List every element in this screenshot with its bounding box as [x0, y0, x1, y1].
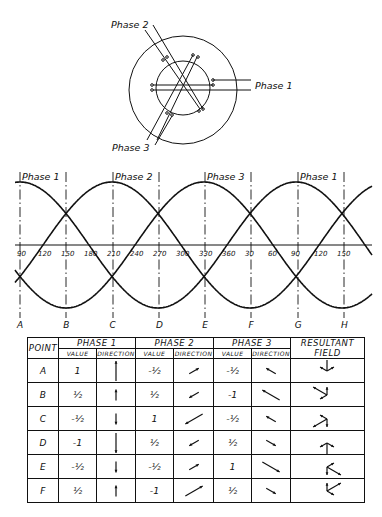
point-label: F [249, 320, 255, 330]
header-value: VALUE [135, 349, 173, 359]
point-cell: D [28, 431, 59, 455]
phase3-direction-arrow-icon [252, 383, 291, 407]
point-cell: B [28, 383, 59, 407]
header-phase3: PHASE 3 [214, 338, 291, 349]
phase1-value: -½ [58, 455, 96, 479]
diagram-canvas: Phase 2 Phase 1 Phase 3 Phase 1Phase 2Ph… [0, 0, 382, 335]
phase2-direction-arrow-icon [174, 431, 214, 455]
resultant-field-vector-icon [290, 455, 364, 479]
table-row: E-½-½1 [28, 455, 365, 479]
phase3-value: -½ [214, 359, 252, 383]
phase1-direction-arrow-icon [97, 479, 136, 503]
point-label: H [341, 320, 348, 330]
stator-label-phase3: Phase 3 [112, 142, 149, 153]
header-resultant: RESULTANT FIELD [290, 338, 364, 359]
table-row: F½-1½ [28, 479, 365, 503]
header-phase1: PHASE 1 [58, 338, 135, 349]
point-label: C [110, 320, 117, 330]
table-row: B½½-1 [28, 383, 365, 407]
resultant-field-vector-icon [290, 383, 364, 407]
phase3-direction-arrow-icon [252, 455, 291, 479]
degree-tick-label: 330 [199, 250, 213, 258]
phase2-direction-arrow-icon [174, 383, 214, 407]
waveform-phase-label: Phase 2 [115, 171, 152, 182]
resultant-field-vector-icon [290, 479, 364, 503]
header-value: VALUE [58, 349, 96, 359]
phase3-value: -1 [214, 383, 252, 407]
phase1-direction-arrow-icon [97, 359, 136, 383]
phase-table: POINT PHASE 1 PHASE 2 PHASE 3 RESULTANT … [27, 337, 365, 503]
phase1-direction-arrow-icon [97, 383, 136, 407]
phase1-direction-arrow-icon [97, 431, 136, 455]
degree-tick-label: 120 [314, 250, 328, 258]
stator-label-phase2: Phase 2 [111, 19, 148, 30]
phase2-value: 1 [135, 407, 173, 431]
degree-tick-label: 120 [38, 250, 52, 258]
phase2-value: ½ [135, 383, 173, 407]
degree-tick-label: 60 [268, 250, 277, 258]
phase2-value: -½ [135, 359, 173, 383]
degree-tick-label: 300 [176, 250, 190, 258]
degree-tick-label: 30 [245, 250, 254, 258]
point-label: A [16, 320, 23, 330]
phase1-direction-arrow-icon [97, 407, 136, 431]
resultant-field-vector-icon [290, 407, 364, 431]
waveform-phase-label: Phase 1 [300, 171, 337, 182]
phase1-value: -½ [58, 407, 96, 431]
phase3-value: 1 [214, 455, 252, 479]
degree-tick-label: 150 [337, 250, 351, 258]
phase1-value: ½ [58, 479, 96, 503]
header-phase2: PHASE 2 [135, 338, 213, 349]
phase2-direction-arrow-icon [174, 479, 214, 503]
phase2-direction-arrow-icon [174, 407, 214, 431]
header-direction: DIRECTION [252, 349, 291, 359]
degree-tick-label: 360 [222, 250, 236, 258]
phase1-value: ½ [58, 383, 96, 407]
degree-tick-label: 240 [130, 250, 144, 258]
phase3-direction-arrow-icon [252, 431, 291, 455]
degree-tick-label: 90 [17, 250, 26, 258]
point-label: E [202, 320, 208, 330]
degree-tick-label: 90 [291, 250, 300, 258]
phase3-value: ½ [214, 479, 252, 503]
waveform-chart: Phase 1Phase 2Phase 3Phase 1 90120150180… [15, 171, 372, 330]
point-cell: F [28, 479, 59, 503]
degree-tick-label: 150 [61, 250, 75, 258]
point-cell: C [28, 407, 59, 431]
table-row: A1-½-½ [28, 359, 365, 383]
phase2-direction-arrow-icon [174, 359, 214, 383]
point-label: B [63, 320, 69, 330]
header-direction: DIRECTION [97, 349, 136, 359]
phase2-value: ½ [135, 431, 173, 455]
degree-tick-label: 210 [107, 250, 121, 258]
table-row: D-1½½ [28, 431, 365, 455]
phase3-value: -½ [214, 407, 252, 431]
phase1-value: -1 [58, 431, 96, 455]
phase1-value: 1 [58, 359, 96, 383]
header-point: POINT [28, 338, 59, 359]
point-label: G [295, 320, 302, 330]
phase2-direction-arrow-icon [174, 455, 214, 479]
point-cell: A [28, 359, 59, 383]
stator-diagram [129, 25, 251, 145]
phase3-direction-arrow-icon [252, 407, 291, 431]
degree-tick-label: 270 [153, 250, 167, 258]
header-value: VALUE [214, 349, 252, 359]
phase3-direction-arrow-icon [252, 479, 291, 503]
phase2-value: -1 [135, 479, 173, 503]
resultant-field-vector-icon [290, 359, 364, 383]
phase2-value: -½ [135, 455, 173, 479]
phase1-direction-arrow-icon [97, 455, 136, 479]
resultant-field-vector-icon [290, 431, 364, 455]
phase3-value: ½ [214, 431, 252, 455]
stator-label-phase1: Phase 1 [255, 80, 292, 91]
waveform-phase-label: Phase 1 [22, 171, 59, 182]
phase3-direction-arrow-icon [252, 359, 291, 383]
header-direction: DIRECTION [174, 349, 214, 359]
degree-tick-label: 180 [84, 250, 98, 258]
waveform-phase-label: Phase 3 [207, 171, 244, 182]
point-label: D [156, 320, 163, 330]
table-row: C-½1-½ [28, 407, 365, 431]
point-cell: E [28, 455, 59, 479]
